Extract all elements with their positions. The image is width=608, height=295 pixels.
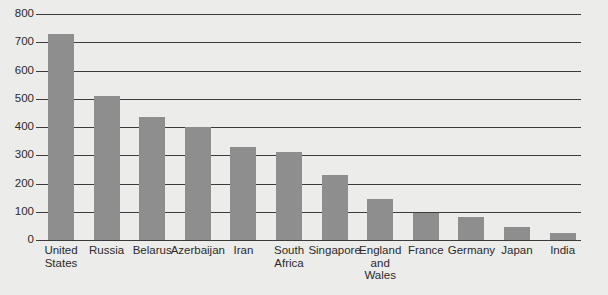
gridline (44, 14, 581, 15)
y-axis-tick (36, 42, 45, 43)
x-axis-baseline (44, 240, 581, 241)
y-axis-tick-label: 100 (0, 206, 34, 218)
y-axis-tick-label: 500 (0, 93, 34, 105)
bar (550, 233, 576, 240)
bar (458, 217, 484, 240)
bar (48, 34, 74, 240)
bar (230, 147, 256, 240)
y-axis-tick (36, 240, 45, 241)
bar (139, 117, 165, 240)
x-axis-category-label: India (533, 244, 593, 257)
bar (276, 152, 302, 240)
bar (413, 213, 439, 240)
bar (322, 175, 348, 240)
gridline (44, 127, 581, 128)
bar (504, 227, 530, 240)
y-axis-tick-label: 0 (0, 234, 34, 246)
bar (367, 199, 393, 240)
bar (185, 127, 211, 240)
gridline (44, 212, 581, 213)
y-axis-tick (36, 212, 45, 213)
plot-area: 8007006005004003002001000 United StatesR… (0, 0, 608, 295)
y-axis-tick-label: 600 (0, 65, 34, 77)
bar-chart: 8007006005004003002001000 United StatesR… (0, 0, 608, 295)
y-axis-tick (36, 184, 45, 185)
bar (94, 96, 120, 240)
y-axis-tick (36, 71, 45, 72)
gridline (44, 99, 581, 100)
y-axis-tick-label: 300 (0, 149, 34, 161)
y-axis-tick (36, 99, 45, 100)
gridline (44, 71, 581, 72)
gridline (44, 42, 581, 43)
y-axis-tick (36, 127, 45, 128)
y-axis-tick-label: 800 (0, 8, 34, 20)
y-axis-tick-label: 400 (0, 121, 34, 133)
gridline (44, 184, 581, 185)
y-axis-tick-label: 700 (0, 36, 34, 48)
y-axis-tick (36, 155, 45, 156)
y-axis-tick (36, 14, 45, 15)
y-axis-tick-label: 200 (0, 178, 34, 190)
gridline (44, 155, 581, 156)
